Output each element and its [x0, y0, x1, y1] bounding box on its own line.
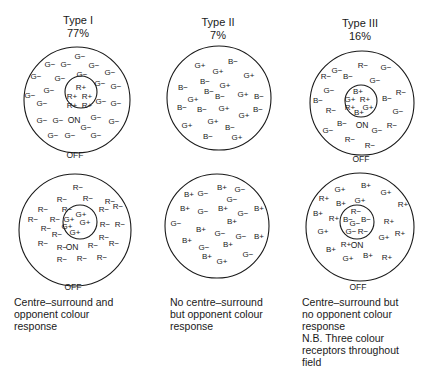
type2-bottom-surround-label: B+: [218, 204, 228, 213]
type2-bottom-surround-label: G−: [198, 189, 209, 198]
type2-top-surround-label: B−: [203, 132, 213, 141]
type1-top-surround-label: G−: [91, 131, 102, 140]
type3-bottom-surround-label: G+: [343, 254, 354, 263]
type1-bottom-surround-label: R−: [73, 183, 84, 192]
type3-top-surround-label: G−: [370, 76, 381, 85]
type2-bottom-surround-label: G−: [215, 229, 226, 238]
type2-bottom-surround-label: G+: [217, 257, 228, 266]
type1-top-surround-label: G−: [89, 61, 100, 70]
type1-caption: Centre–surround and opponent colour resp…: [14, 296, 113, 332]
type1-top-on-label: ON: [68, 115, 81, 125]
type2-bottom-surround-label: B+: [180, 204, 190, 213]
type2-bottom-surround-label: G−: [198, 207, 209, 216]
type3-top-surround-label: R−: [396, 88, 407, 97]
type2-bottom-surround-label: G−: [236, 232, 247, 241]
type1-top-surround-label: G−: [111, 82, 122, 91]
type3-bottom-centre-label: G−: [346, 227, 357, 236]
type2-top-surround-label: G+: [244, 71, 255, 80]
type1-bottom-surround-label: R−: [57, 195, 68, 204]
type2-top-surround-label: B−: [178, 83, 188, 92]
type1-bottom-surround-label: R−: [38, 239, 49, 248]
type3-top-surround-label: G−: [323, 126, 334, 135]
type1-top-surround-label: G−: [45, 60, 56, 69]
type2-top-surround-label: G+: [232, 133, 243, 142]
type2-top-surround-label: G+: [195, 61, 206, 70]
type1-top-surround-label: G−: [44, 86, 55, 95]
type2-top-surround-label: G+: [219, 104, 230, 113]
type3-top-surround-label: G−: [332, 66, 343, 75]
type3-bottom-surround-label: R+: [329, 214, 340, 223]
type2-top-surround-label: B−: [200, 77, 210, 86]
type1-top-surround-label: G−: [53, 116, 64, 125]
type1-bottom-surround-label: R−: [83, 194, 94, 203]
type3-top-surround-label: G−: [324, 86, 335, 95]
type1-top-surround-label: G−: [48, 131, 59, 140]
type2-top-surround-label: G+: [208, 117, 219, 126]
type2-top-surround-label: B−: [215, 92, 225, 101]
type1-top-centre-label: R+: [67, 92, 78, 101]
type3-bottom-surround-label: R+: [398, 200, 409, 209]
type3-bottom-surround-label: G+: [355, 196, 366, 205]
type3-top-centre-label: B+: [354, 108, 364, 117]
type1-top-surround-label: G−: [65, 131, 76, 140]
type3-bottom-surround-label: B+: [361, 181, 371, 190]
type1-top-surround-label: G−: [25, 91, 36, 100]
type2-bottom-surround-label: G−: [227, 195, 238, 204]
type2-bottom-surround-label: G−: [238, 209, 249, 218]
type3-top-surround-label: R−: [326, 106, 337, 115]
type1-top-off-label: OFF: [67, 150, 84, 160]
type1-bottom-surround-label: R−: [100, 220, 111, 229]
type3-bottom-surround-label: G+: [335, 185, 346, 194]
type3-bottom-surround-label: R+: [319, 194, 330, 203]
type2-bottom-surround-label: B+: [202, 252, 212, 261]
type3-bottom-centre-label: R−: [358, 227, 369, 236]
type3-bottom-surround-label: R+: [395, 229, 406, 238]
type3-top-surround-label: B−: [343, 72, 353, 81]
type3-bottom-surround-label: G+: [379, 233, 390, 242]
type3-bottom-surround-label: G+: [318, 227, 329, 236]
type3-bottom-off-label: OFF: [350, 282, 367, 292]
type2-bottom-surround-label: B+: [182, 236, 192, 245]
type2-bottom-surround-label: B+: [184, 190, 194, 199]
type3-top-surround-label: R−: [321, 72, 332, 81]
type3-top-centre-label: G+: [363, 103, 374, 112]
type3-bottom-surround-label: B+: [363, 251, 373, 260]
type3-caption: Centre–surround but no opponent colour r…: [302, 296, 399, 366]
type1-top-surround-label: G−: [111, 99, 122, 108]
type2-top-surround-label: B−: [225, 123, 235, 132]
type2-top-surround-label: G+: [188, 95, 199, 104]
type2-top-surround-label: G+: [182, 121, 193, 130]
type1-bottom-surround-label: R−: [50, 215, 61, 224]
type1-top-surround-label: G−: [77, 70, 88, 79]
type3-bottom-surround-label: B+: [313, 209, 323, 218]
type3-top-surround-label: R−: [345, 135, 356, 144]
type2-top-surround-label: G+: [213, 67, 224, 76]
type3-top-on-label: ON: [356, 120, 369, 130]
type2-top-surround-label: B−: [197, 105, 207, 114]
type3-top-surround-label: B−: [382, 94, 392, 103]
type2-bottom-surround-label: G−: [199, 243, 210, 252]
type2-top-surround-label: B−: [204, 87, 214, 96]
type3-top-surround-label: G−: [393, 107, 404, 116]
type2-top-surround-label: B−: [253, 105, 263, 114]
type3-top-off-label: OFF: [353, 154, 370, 164]
type1-top-surround-label: G−: [31, 72, 42, 81]
type2-top-surround-label: G+: [239, 111, 250, 120]
type1-top-surround-label: G−: [55, 74, 66, 83]
type1-top-surround-label: G−: [109, 117, 120, 126]
type1-bottom-surround-label: R−: [57, 255, 68, 264]
type2-bottom-surround-label: G−: [235, 185, 246, 194]
type2-bottom-surround-label: G−: [243, 250, 254, 259]
type3-bottom-surround-label: R+: [382, 253, 393, 262]
type1-bottom-centre-label: G+: [80, 218, 91, 227]
type3-top-surround-label: R−: [358, 61, 369, 70]
type3-top-surround-label: G−: [372, 126, 383, 135]
type2-bottom-surround-label: B+: [217, 183, 227, 192]
type1-top-centre-label: R+: [76, 83, 87, 92]
type3-bottom-surround-label: R+: [384, 217, 395, 226]
type1-bottom-centre-label: G+: [70, 228, 81, 237]
type1-bottom-surround-label: R−: [52, 230, 63, 239]
type1-top-centre-label: R+: [82, 92, 93, 101]
type2-caption: No centre–surround but opponent colour r…: [170, 296, 263, 332]
type3-top-surround-label: R−: [365, 141, 376, 150]
